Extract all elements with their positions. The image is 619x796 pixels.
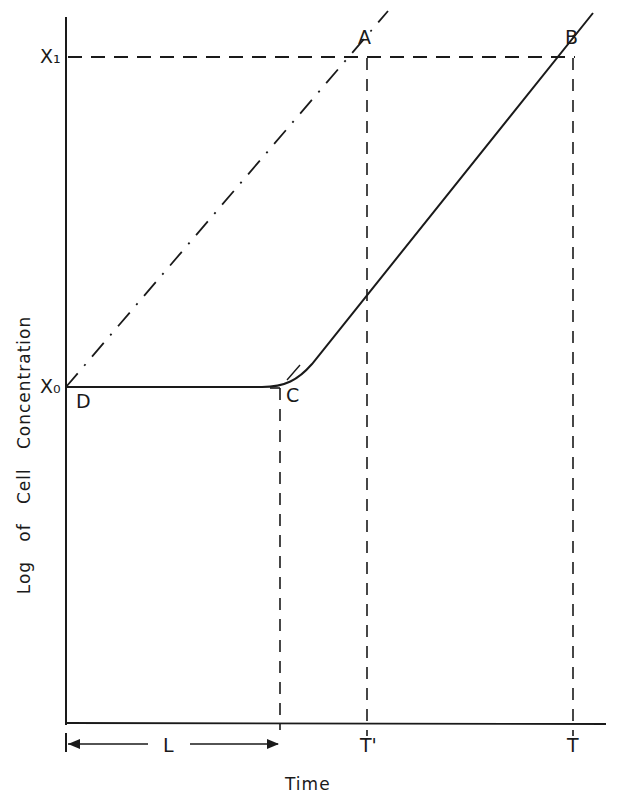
point-c-label: C <box>286 384 299 406</box>
x1-label: X₁ <box>40 45 61 67</box>
point-b-label: B <box>565 26 578 48</box>
x-axis <box>66 723 606 724</box>
lag-label: L <box>163 734 174 756</box>
lag-arrowhead-right <box>267 739 279 749</box>
t-prime-label: T' <box>359 734 377 756</box>
t-label: T <box>566 734 579 756</box>
x0-label: X₀ <box>40 375 61 397</box>
point-d-label: D <box>76 390 91 412</box>
actual-growth-curve <box>66 13 593 387</box>
x-axis-title: Time <box>284 774 331 794</box>
y-axis-title: Log of Cell Concentration <box>14 316 34 594</box>
point-a-label: A <box>358 26 371 48</box>
growth-lag-diagram: X₁ X₀ A B C D L T' T Time Log of Cell Co… <box>0 0 619 796</box>
lag-arrowhead-left <box>68 739 80 749</box>
